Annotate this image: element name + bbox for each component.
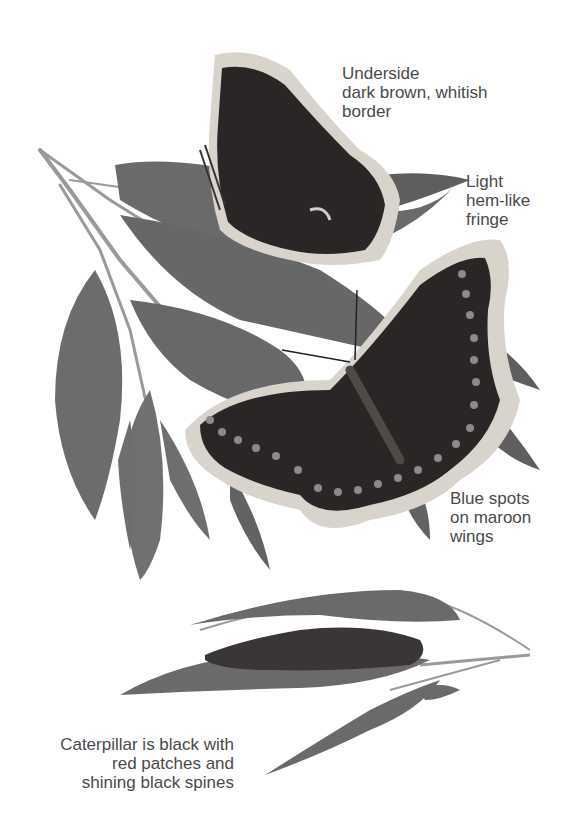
label-underside: Underside dark brown, whitish border xyxy=(342,64,488,121)
butterfly-illustration xyxy=(0,0,570,832)
label-caterpillar: Caterpillar is black with red patches an… xyxy=(36,735,234,792)
caterpillar xyxy=(205,628,423,671)
illustration-page: Underside dark brown, whitish border Lig… xyxy=(0,0,570,832)
label-spots: Blue spots on maroon wings xyxy=(450,489,531,546)
leaf xyxy=(55,270,122,520)
label-fringe: Light hem-like fringe xyxy=(466,172,530,229)
leaf xyxy=(265,680,440,775)
leaf xyxy=(190,590,460,625)
